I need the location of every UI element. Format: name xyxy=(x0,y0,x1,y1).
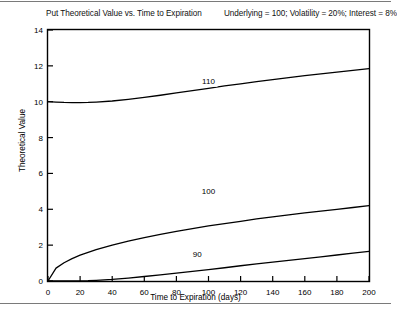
curve-label-110: 110 xyxy=(202,77,215,86)
x-tick-label: 40 xyxy=(108,288,117,297)
x-tick-labels: 020406080100120140160180200 xyxy=(46,288,376,297)
x-tick-label: 120 xyxy=(234,288,248,297)
curve-label-90: 90 xyxy=(193,250,202,259)
y-tick-label: 14 xyxy=(34,26,43,35)
curve-label-100: 100 xyxy=(202,187,216,196)
x-tick-label: 0 xyxy=(46,288,51,297)
plot-frame xyxy=(48,30,370,282)
x-tick-label: 160 xyxy=(298,288,312,297)
x-tick-label: 180 xyxy=(330,288,344,297)
y-tick-label: 10 xyxy=(34,98,43,107)
x-tick-label: 100 xyxy=(202,288,216,297)
x-tick-label: 80 xyxy=(172,288,181,297)
y-tick-label: 12 xyxy=(34,62,43,71)
x-tick-label: 140 xyxy=(266,288,280,297)
y-tick-labels: 02468101214 xyxy=(34,26,43,286)
x-tick-label: 200 xyxy=(362,288,376,297)
x-tick-label: 60 xyxy=(140,288,149,297)
y-tick-label: 4 xyxy=(39,205,44,214)
y-tick-label: 2 xyxy=(39,241,44,250)
x-tick-label: 20 xyxy=(76,288,85,297)
y-tick-label: 8 xyxy=(39,134,44,143)
y-tick-label: 6 xyxy=(39,169,44,178)
y-tick-label: 0 xyxy=(39,277,44,286)
